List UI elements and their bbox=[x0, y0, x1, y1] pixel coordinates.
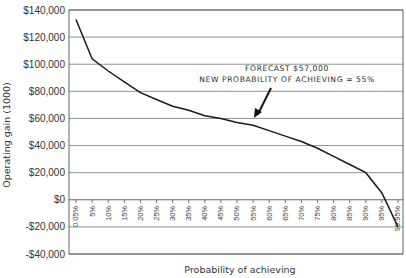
y-tick-label: $20,000 bbox=[29, 167, 66, 178]
x-tick-label: 0.05% bbox=[72, 205, 81, 227]
x-tick-label: 95% bbox=[377, 205, 386, 220]
y-axis-label: Operating gain (1000) bbox=[1, 82, 12, 188]
x-axis-label: Probability of achieving bbox=[184, 264, 295, 275]
x-tick-label: 45% bbox=[216, 205, 225, 220]
x-tick-label: 15% bbox=[120, 205, 129, 220]
x-tick-label: 60% bbox=[265, 205, 274, 220]
x-tick-label: 30% bbox=[168, 205, 177, 220]
y-axis-ticks: $140,000$120,000$100,000$80,000$60,000$4… bbox=[23, 5, 65, 260]
x-tick-label: 70% bbox=[297, 205, 306, 220]
y-tick-label: $40,000 bbox=[29, 140, 66, 151]
x-tick-label: 99.95% bbox=[394, 205, 403, 231]
data-line bbox=[76, 20, 398, 227]
x-tick-label: 90% bbox=[361, 205, 370, 220]
y-tick-label: $80,000 bbox=[29, 86, 66, 97]
y-tick-label: -$40,000 bbox=[26, 249, 66, 260]
y-tick-label: $120,000 bbox=[23, 32, 65, 43]
y-tick-label: $100,000 bbox=[23, 59, 65, 70]
annotation-line-2: NEW PROBABILITY OF ACHIEVING = 55% bbox=[199, 75, 375, 84]
x-tick-label: 10% bbox=[104, 205, 113, 220]
x-tick-label: 85% bbox=[345, 205, 354, 220]
y-tick-label: $0 bbox=[54, 194, 66, 205]
chart: $140,000$120,000$100,000$80,000$60,000$4… bbox=[0, 0, 406, 278]
annotation-line-1: FORECAST $57,000 bbox=[245, 64, 329, 73]
x-tick-label: 35% bbox=[184, 205, 193, 220]
x-tick-label: 80% bbox=[329, 205, 338, 220]
x-tick-label: 40% bbox=[200, 205, 209, 220]
x-tick-label: 50% bbox=[233, 205, 242, 220]
y-tick-label: -$20,000 bbox=[26, 221, 66, 232]
x-tick-label: 5% bbox=[88, 205, 97, 216]
annotation-arrow bbox=[258, 88, 271, 114]
y-tick-label: $140,000 bbox=[23, 5, 65, 16]
y-tick-label: $60,000 bbox=[29, 113, 66, 124]
x-tick-label: 55% bbox=[249, 205, 258, 220]
x-tick-label: 65% bbox=[281, 205, 290, 220]
x-tick-label: 20% bbox=[136, 205, 145, 220]
x-tick-label: 75% bbox=[313, 205, 322, 220]
x-tick-label: 25% bbox=[152, 205, 161, 220]
